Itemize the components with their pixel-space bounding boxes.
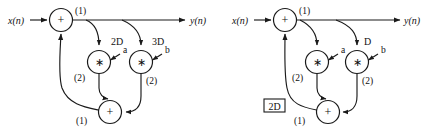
right-multiplier-a-branch-label: (2)	[292, 73, 303, 84]
right-bottom-adder-plus-symbol: +	[325, 105, 332, 119]
right-coefficient-a-arrow	[329, 54, 339, 60]
left-coefficient-a-arrow	[111, 54, 121, 60]
right-bottom-adder-branch-label: (1)	[294, 116, 305, 127]
right-top-adder-branch-label: (1)	[299, 6, 310, 17]
left-coefficient-a-label: a	[123, 45, 128, 55]
left-multiplier-b-symbol: ∗	[137, 56, 146, 68]
signal-flow-diagram-figure: + ∗ ∗ +	[0, 0, 428, 136]
left-diagram: + ∗ ∗ +	[7, 6, 207, 127]
left-multiplier-a-to-bottom-adder	[99, 74, 108, 100]
right-multiplier-b-branch-label: (2)	[362, 76, 373, 87]
left-bottom-adder-branch-label: (1)	[76, 116, 87, 127]
right-diagram: + ∗ ∗ + 2D	[231, 6, 421, 127]
left-multiplier-b-branch-label: (2)	[146, 76, 157, 87]
left-input-label: x(n)	[7, 15, 25, 27]
left-output-label: y(n)	[189, 15, 207, 27]
right-multiplier-a-symbol: ∗	[313, 56, 322, 68]
figure-canvas: + ∗ ∗ +	[0, 0, 428, 136]
left-coefficient-b-arrow	[153, 54, 163, 60]
left-multiplier-a-branch-label: (2)	[74, 73, 85, 84]
left-multiplier-a-symbol: ∗	[95, 56, 104, 68]
left-delay-3d-label: 3D	[152, 36, 164, 47]
right-top-adder-plus-symbol: +	[282, 13, 289, 27]
right-branch-to-multiplier-a	[300, 20, 317, 45]
left-top-adder-plus-symbol: +	[58, 13, 65, 27]
right-coefficient-b-arrow	[369, 54, 379, 60]
right-multiplier-b-symbol: ∗	[353, 56, 362, 68]
right-multiplier-b-to-bottom-adder	[343, 74, 357, 113]
left-branch-to-multiplier-a	[86, 20, 99, 45]
left-top-adder-branch-label: (1)	[75, 6, 86, 17]
left-bottom-adder-plus-symbol: +	[107, 105, 114, 119]
right-multiplier-a-to-bottom-adder	[317, 74, 326, 100]
right-output-label: y(n)	[403, 15, 421, 27]
right-coefficient-a-label: a	[341, 45, 346, 55]
right-delay-2d-label: 2D	[268, 101, 280, 112]
left-delay-2d-label: 2D	[111, 36, 123, 47]
right-delay-d-label: D	[364, 36, 371, 47]
right-branch-to-multiplier-b	[336, 20, 357, 45]
left-branch-to-multiplier-b	[122, 20, 141, 45]
left-multiplier-b-to-bottom-adder	[126, 74, 141, 113]
right-coefficient-b-label: b	[381, 45, 386, 55]
left-coefficient-b-label: b	[165, 45, 170, 55]
right-input-label: x(n)	[231, 15, 249, 27]
